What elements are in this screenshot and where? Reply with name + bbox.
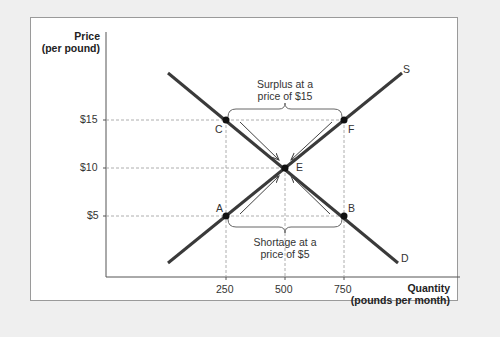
point-b [341,213,348,220]
label-e: E [296,161,303,173]
label-b: B [348,202,355,214]
surplus-brace [228,103,342,117]
point-f [341,117,348,124]
surplus-annotation: Surplus at a price of $15 [245,78,325,102]
y-tick-10: $10 [80,161,98,173]
point-c [223,117,230,124]
label-a: A [216,202,223,214]
y-tick-15: $15 [80,113,98,125]
shortage-annotation: Shortage at a price of $5 [245,236,325,260]
point-e [282,165,289,172]
label-c: C [215,123,223,135]
point-a [223,213,230,220]
supply-label: S [403,63,410,75]
x-tick-500: 500 [275,283,293,295]
y-tick-5: $5 [87,209,99,221]
x-tick-250: 250 [216,283,234,295]
x-tick-750: 750 [334,283,352,295]
demand-label: D [401,252,409,264]
y-axis-title: Price (per pound) [40,30,100,54]
label-f: F [348,123,354,135]
